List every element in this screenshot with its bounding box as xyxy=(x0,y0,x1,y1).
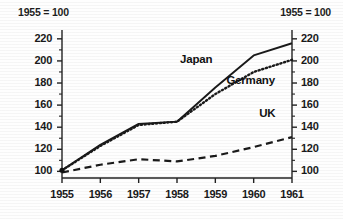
series-line-uk xyxy=(62,137,292,172)
series-label-japan: Japan xyxy=(180,53,212,65)
y-tick-label-right: 160 xyxy=(301,98,331,110)
x-tick-label: 1960 xyxy=(234,188,274,200)
series-label-uk: UK xyxy=(259,107,275,119)
y-tick-label-left: 180 xyxy=(22,76,52,88)
series-lines xyxy=(62,43,292,172)
x-tick-label: 1957 xyxy=(119,188,159,200)
x-tick-label: 1956 xyxy=(80,188,120,200)
y-tick-label-right: 120 xyxy=(301,142,331,154)
y-ticks-left xyxy=(57,39,62,172)
x-tick-label: 1958 xyxy=(157,188,197,200)
origin-marker xyxy=(59,168,64,173)
y-tick-label-right: 140 xyxy=(301,120,331,132)
y-tick-label-left: 140 xyxy=(22,120,52,132)
y-tick-label-right: 200 xyxy=(301,54,331,66)
y-tick-label-right: 220 xyxy=(301,32,331,44)
y-tick-label-left: 220 xyxy=(22,32,52,44)
y-tick-label-left: 200 xyxy=(22,54,52,66)
y-ticks-right xyxy=(292,39,297,172)
series-label-germany: Germany xyxy=(226,74,274,86)
y-tick-label-left: 100 xyxy=(22,164,52,176)
y-tick-label-left: 120 xyxy=(22,142,52,154)
series-line-japan xyxy=(62,43,292,170)
y-tick-label-right: 180 xyxy=(301,76,331,88)
index-line-chart: 1955 = 100 1955 = 100 100120140160180200… xyxy=(0,0,343,219)
x-tick-label: 1959 xyxy=(195,188,235,200)
x-tick-label: 1955 xyxy=(42,188,82,200)
y-tick-label-right: 100 xyxy=(301,164,331,176)
x-tick-label: 1961 xyxy=(272,188,312,200)
y-tick-label-left: 160 xyxy=(22,98,52,110)
